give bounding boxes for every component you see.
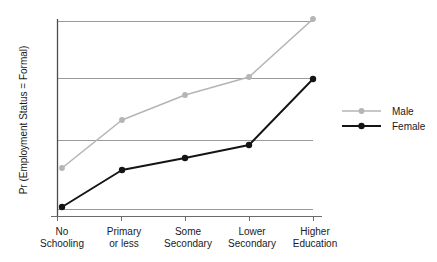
series-male-point: [310, 16, 316, 22]
x-tick-label-3-line2: Secondary: [228, 238, 276, 249]
series-female-point: [246, 142, 252, 148]
series-male-point: [182, 92, 188, 98]
series-female-point: [310, 76, 316, 82]
series-female-point: [182, 155, 188, 161]
series-male-point: [246, 74, 252, 80]
chart-background: [0, 0, 437, 262]
legend-label-male: Male: [392, 106, 414, 117]
x-tick-label-4-line1: Higher: [300, 226, 330, 237]
x-tick-label-0-line1: No: [56, 226, 69, 237]
series-male-point: [59, 165, 65, 171]
x-tick-label-2-line1: Some: [175, 226, 202, 237]
x-tick-label-1-line1: Primary: [107, 226, 141, 237]
x-tick-label-1-line2: or less: [109, 238, 138, 249]
x-tick-label-0-line2: Schooling: [40, 238, 84, 249]
series-male-point: [119, 117, 125, 123]
y-axis-title: Pr (Employment Status = Formal): [18, 46, 29, 195]
x-tick-label-3-line1: Lower: [238, 226, 266, 237]
y-axis-title-group: Pr (Employment Status = Formal): [18, 46, 29, 195]
legend-marker-male: [359, 108, 365, 114]
x-tick-label-4-line2: Education: [293, 238, 337, 249]
legend-label-female: Female: [392, 121, 426, 132]
x-tick-label-2-line2: Secondary: [164, 238, 212, 249]
series-female-point: [59, 204, 65, 210]
series-female-point: [119, 167, 125, 173]
line-chart-figure: Pr (Employment Status = Formal) No Schoo…: [0, 0, 437, 262]
legend-marker-female: [358, 123, 364, 129]
chart-container: Pr (Employment Status = Formal) No Schoo…: [0, 0, 437, 262]
